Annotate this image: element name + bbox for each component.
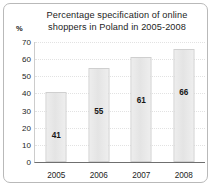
- y-axis-tick: 60: [22, 55, 31, 64]
- x-axis-tick: 2007: [132, 171, 150, 180]
- bar-value-label: 66: [179, 88, 188, 97]
- y-axis-tick: 30: [22, 106, 31, 115]
- bar-value-label: 55: [94, 107, 103, 116]
- bar[interactable]: [131, 57, 152, 162]
- bar-group[interactable]: 612007: [120, 42, 163, 162]
- bar-value-label: 61: [137, 96, 146, 105]
- y-axis-tick: 0: [27, 158, 31, 167]
- y-axis-unit-label: %: [16, 24, 23, 33]
- bar[interactable]: [173, 49, 194, 162]
- y-axis-tick: 70: [22, 38, 31, 47]
- y-axis-tick: 10: [22, 140, 31, 149]
- bar-group[interactable]: 662008: [163, 42, 206, 162]
- bar-group[interactable]: 412005: [35, 42, 78, 162]
- chart-title: Percentage specification of online shopp…: [28, 10, 206, 33]
- x-axis-tick: 2008: [175, 171, 193, 180]
- plot-area: 706050403020100 412005552006612007662008: [34, 42, 205, 163]
- y-axis-tick: 20: [22, 123, 31, 132]
- y-axis-tick: 50: [22, 72, 31, 81]
- x-axis-tick: 2006: [90, 171, 108, 180]
- chart-card: Percentage specification of online shopp…: [3, 3, 208, 183]
- bar[interactable]: [46, 92, 67, 162]
- bar-value-label: 41: [52, 131, 61, 140]
- y-axis-tick: 40: [22, 89, 31, 98]
- x-axis-tick: 2005: [47, 171, 65, 180]
- bar-group[interactable]: 552006: [78, 42, 121, 162]
